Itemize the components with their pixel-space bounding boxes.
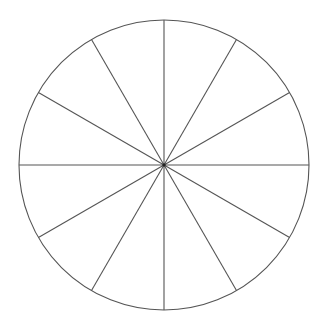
segmented-circle-diagram	[0, 0, 324, 326]
center-point	[163, 164, 166, 167]
